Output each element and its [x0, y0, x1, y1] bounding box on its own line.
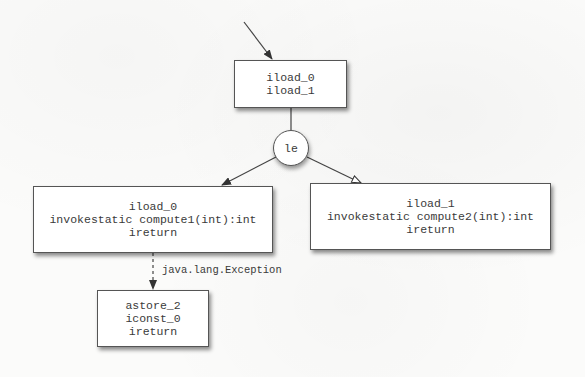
instruction-line: iload_1	[406, 197, 454, 210]
branch-to-true-edge	[222, 157, 276, 185]
exception-edge-label: java.lang.Exception	[162, 264, 282, 276]
instruction-line: invokestatic compute1(int):int	[49, 213, 256, 226]
branch-node-le: le	[273, 130, 309, 166]
instruction-line: invokestatic compute2(int):int	[327, 210, 534, 223]
entry-block: iload_0 iload_1	[234, 60, 347, 108]
branch-to-false-edge	[307, 157, 361, 183]
instruction-line: ireturn	[129, 325, 177, 338]
branch-label: le	[284, 142, 298, 155]
exception-handler-block: astore_2 iconst_0 ireturn	[97, 290, 209, 347]
instruction-line: iconst_0	[125, 312, 180, 325]
instruction-line: iload_0	[129, 200, 177, 213]
instruction-line: astore_2	[125, 299, 180, 312]
instruction-line: iload_0	[266, 71, 314, 84]
true-branch-block: iload_0 invokestatic compute1(int):int i…	[33, 186, 273, 253]
start-edge	[244, 22, 272, 59]
false-branch-block: iload_1 invokestatic compute2(int):int i…	[310, 183, 551, 250]
instruction-line: ireturn	[406, 223, 454, 236]
instruction-line: iload_1	[266, 84, 314, 97]
diagram-canvas: iload_0 iload_1 le iload_0 invokestatic …	[0, 0, 585, 377]
instruction-line: ireturn	[129, 226, 177, 239]
